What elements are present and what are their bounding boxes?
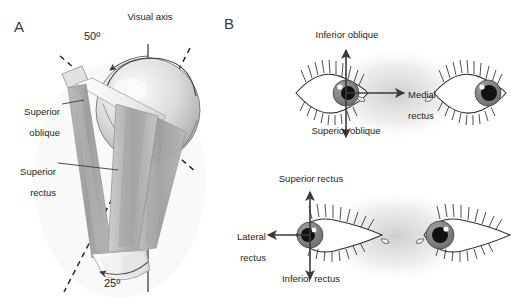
superior-rectus-label-a: Superior rectus	[0, 156, 56, 198]
angle-25-label: 25º	[104, 277, 120, 289]
left-eye-highlight	[337, 84, 342, 89]
lateral-rectus-label: Lateral rectus	[222, 221, 266, 263]
medial-rectus-line2: rectus	[408, 110, 434, 121]
inferior-oblique-label: Inferior oblique	[282, 30, 412, 41]
visual-axis-label: Visual axis	[112, 12, 188, 23]
lateral-rectus-line2: rectus	[240, 252, 266, 263]
medial-rectus-label: Medial rectus	[408, 79, 468, 121]
left-eye2-highlight	[312, 228, 317, 233]
superior-oblique-line2: oblique	[29, 127, 60, 138]
superior-oblique-label-b: Superior oblique	[276, 126, 416, 137]
panel-a-label: A	[14, 18, 25, 35]
figure-svg	[0, 0, 532, 305]
superior-oblique-label-a: Superior oblique	[0, 96, 60, 138]
superior-rectus-label-b: Superior rectus	[248, 174, 374, 185]
superior-rectus-line2: rectus	[30, 187, 56, 198]
right-eye-highlight	[479, 84, 484, 89]
panel-a-artwork	[34, 44, 206, 298]
inferior-rectus-label: Inferior rectus	[248, 274, 374, 285]
superior-rectus-line1: Superior	[20, 166, 56, 177]
medial-rectus-line1: Medial	[408, 89, 436, 100]
angle-50-label: 50º	[84, 30, 100, 42]
right-eye2-highlight	[443, 226, 448, 231]
figure-canvas: A B Visual axis 50º 25º Superior oblique…	[0, 0, 532, 305]
panel-b-lower-pair	[268, 188, 510, 284]
superior-oblique-line1: Superior	[24, 106, 60, 117]
panel-b-label: B	[224, 15, 235, 32]
lateral-rectus-line1: Lateral	[237, 231, 266, 242]
